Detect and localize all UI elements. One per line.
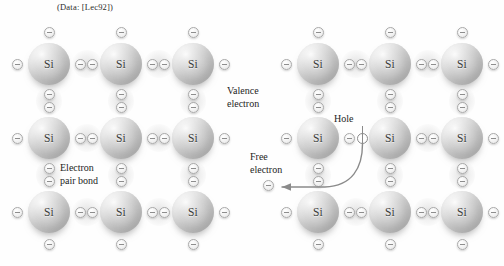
valence-electron [488,133,499,144]
valence-electron-line2: electron [227,97,259,110]
silicon-atom: Si [297,117,339,159]
valence-electron [488,207,499,218]
bond-electron [116,102,127,113]
bond-electron [188,163,199,174]
valence-electron [385,27,396,38]
hole-marker [357,133,368,144]
silicon-atom: Si [297,43,339,85]
bond-electron [87,59,98,70]
atom-label: Si [385,132,395,144]
atom-label: Si [44,58,54,70]
bond-electron [457,163,468,174]
bond-electron [116,163,127,174]
silicon-atom: Si [28,191,70,233]
bond-electron [356,207,367,218]
valence-electron-line1: Valence [227,84,259,97]
free-electron-line2: electron [250,163,282,176]
bond-electron [87,133,98,144]
valence-electron [12,207,23,218]
bond-electron [87,207,98,218]
atom-label: Si [116,206,126,218]
free-electron-marker [263,180,274,191]
bond-electron [428,133,439,144]
atom-label: Si [188,132,198,144]
atom-label: Si [313,132,323,144]
bond-electron [44,102,55,113]
bond-electron [457,102,468,113]
atom-label: Si [313,206,323,218]
atom-label: Si [457,132,467,144]
bond-electron [385,102,396,113]
bond-electron [416,207,427,218]
atom-label: Si [385,206,395,218]
silicon-atom: Si [369,117,411,159]
bond-electron [188,89,199,100]
valence-electron [281,207,292,218]
silicon-atom: Si [172,117,214,159]
bond-electron [188,176,199,187]
bond-electron [75,207,86,218]
bond-electron [385,89,396,100]
valence-electron [116,239,127,250]
bond-electron [159,59,170,70]
valence-electron [457,239,468,250]
silicon-atom: Si [28,117,70,159]
figure-caption: (Data: [Lec92]) [57,2,113,12]
atom-label: Si [457,206,467,218]
bond-electron [147,207,158,218]
bond-electron [428,59,439,70]
bond-electron [428,207,439,218]
valence-electron [44,239,55,250]
electron-pair-bond-label: Electron pair bond [60,161,98,187]
valence-electron [385,239,396,250]
bond-electron [147,59,158,70]
bond-electron [75,59,86,70]
bond-electron [344,133,355,144]
valence-electron [188,239,199,250]
bond-electron [116,89,127,100]
valence-electron-label: Valence electron [227,84,259,110]
atom-label: Si [188,206,198,218]
electron-pair-bond-line1: Electron [60,161,98,174]
atom-label: Si [44,206,54,218]
silicon-atom: Si [441,43,483,85]
free-electron-label: Free electron [250,150,282,176]
bond-electron [416,59,427,70]
atom-label: Si [313,58,323,70]
bond-electron [385,163,396,174]
silicon-atom: Si [100,43,142,85]
silicon-atom: Si [441,117,483,159]
bond-electron [159,133,170,144]
valence-electron [457,27,468,38]
bond-electron [313,176,324,187]
atom-label: Si [116,132,126,144]
bond-electron [344,59,355,70]
bond-electron [116,176,127,187]
bond-electron [147,133,158,144]
valence-electron [281,133,292,144]
annotation-overlay [0,0,504,266]
silicon-atom: Si [100,117,142,159]
valence-electron [219,59,230,70]
bond-electron [457,176,468,187]
valence-electron [188,27,199,38]
silicon-atom: Si [172,43,214,85]
valence-electron [313,27,324,38]
atom-label: Si [385,58,395,70]
bond-electron [159,207,170,218]
valence-electron [488,59,499,70]
silicon-atom: Si [369,191,411,233]
bond-electron [75,133,86,144]
bond-electron [416,133,427,144]
bond-electron [457,89,468,100]
atom-label: Si [116,58,126,70]
bond-electron [356,59,367,70]
bond-electron [313,163,324,174]
bond-electron [313,102,324,113]
bond-electron [385,176,396,187]
valence-electron [12,59,23,70]
silicon-atom: Si [100,191,142,233]
valence-electron [219,207,230,218]
valence-electron [12,133,23,144]
valence-electron [44,27,55,38]
